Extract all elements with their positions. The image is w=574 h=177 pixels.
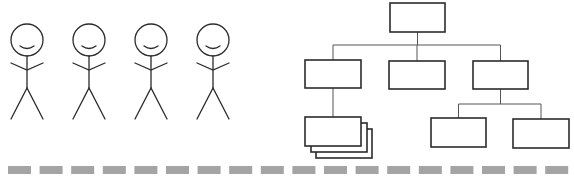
stick-figure-icon — [73, 24, 105, 119]
divider-dash — [292, 166, 315, 174]
org-chart — [305, 3, 569, 158]
divider-dash — [482, 166, 505, 174]
org-box-child-right — [473, 61, 528, 89]
divider-dash — [198, 166, 221, 174]
head — [73, 24, 105, 56]
divider-dash — [103, 166, 126, 174]
divider-dash — [356, 166, 379, 174]
legs — [73, 88, 105, 119]
divider-dash — [40, 166, 63, 174]
people-group — [11, 24, 229, 119]
stick-figure-icon — [197, 24, 229, 119]
legs — [135, 88, 167, 119]
head — [135, 24, 167, 56]
divider-dash — [324, 166, 347, 174]
smile — [20, 46, 34, 49]
divider-dash — [8, 166, 31, 174]
smile — [206, 46, 220, 49]
head — [11, 24, 43, 56]
dashed-divider — [8, 166, 568, 174]
stick-figure-icon — [135, 24, 167, 119]
divider-dash — [450, 166, 473, 174]
divider-dash — [387, 166, 410, 174]
org-box-grandchild-right-a — [431, 118, 486, 147]
divider-dash — [71, 166, 94, 174]
org-box-child-left — [305, 60, 361, 88]
stick-figure-icon — [11, 24, 43, 119]
org-box-child-center — [389, 61, 445, 89]
divider-dash — [166, 166, 189, 174]
smile — [82, 46, 96, 49]
legs — [197, 88, 229, 119]
diagram-canvas — [0, 0, 574, 177]
divider-dash — [134, 166, 157, 174]
divider-dash — [419, 166, 442, 174]
divider-dash — [229, 166, 252, 174]
smile — [144, 46, 158, 49]
org-box-grandchild-right-b — [513, 119, 569, 148]
head — [197, 24, 229, 56]
stacked-box-grandchild-stack — [305, 117, 372, 158]
divider-dash — [545, 166, 568, 174]
org-box-root — [390, 3, 445, 32]
divider-dash — [514, 166, 537, 174]
legs — [11, 88, 43, 119]
divider-dash — [261, 166, 284, 174]
